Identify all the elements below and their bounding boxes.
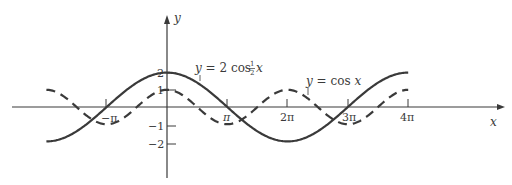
x-ticks (106, 99, 408, 107)
x-axis-label: x (490, 115, 497, 129)
xtick-label-4pi: 4π (400, 111, 414, 124)
ytick-label-neg2: −2 (148, 138, 164, 151)
ytick-label-2: 2 (157, 67, 164, 80)
svg-text:x: x (256, 61, 263, 75)
svg-text:y = 2 cos: y = 2 cos (194, 61, 251, 75)
xtick-label-pi: π (222, 111, 231, 124)
svg-text:1: 1 (250, 60, 254, 68)
xtick-label-neg-pi: −π (101, 112, 117, 125)
ytick-label-1: 1 (157, 84, 164, 97)
svg-text:2: 2 (250, 69, 254, 77)
annotation-2cos-half-x: y = 2 cos 1 2 x (194, 60, 263, 81)
x-axis-arrow-icon (497, 104, 505, 110)
y-axis-arrow-icon (164, 15, 170, 24)
annotation-cos-x: y = cos x (305, 74, 361, 95)
cosine-graph: −π π 2π 3π 4π 2 1 −1 −2 x y y = 2 cos 1 … (0, 0, 512, 185)
xtick-label-2pi: 2π (280, 111, 294, 124)
ytick-label-neg1: −1 (148, 120, 164, 133)
y-axis-label: y (173, 11, 181, 25)
xtick-label-3pi: 3π (342, 111, 356, 124)
svg-text:y = cos x: y = cos x (305, 74, 361, 88)
y-ticks (167, 73, 176, 144)
